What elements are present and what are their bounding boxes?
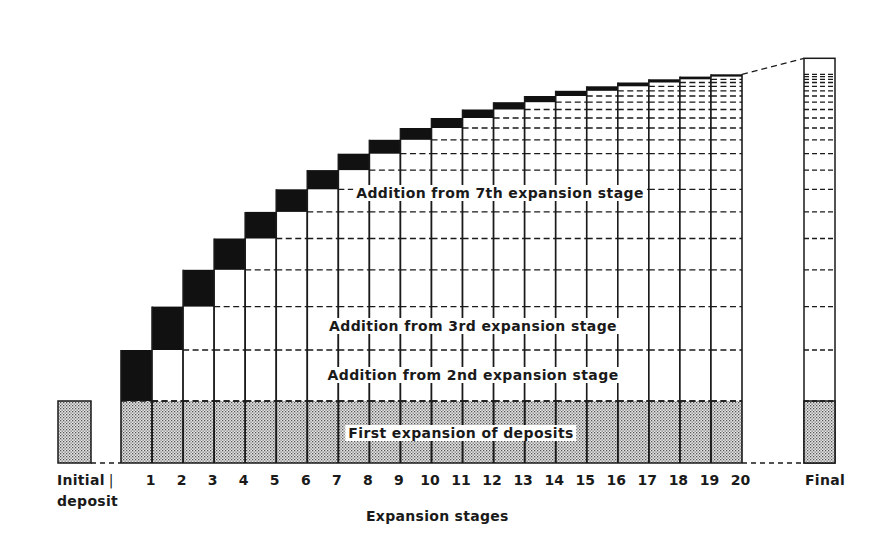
stage-tick-15: 15	[575, 472, 594, 488]
initial-deposit-bar	[58, 401, 91, 463]
x-axis-title: Expansion stages	[366, 508, 509, 524]
stage-tick-17: 17	[638, 472, 657, 488]
stage-tick-6: 6	[301, 472, 311, 488]
label-addition-7th: Addition from 7th expansion stage	[353, 185, 647, 201]
column-body	[556, 91, 587, 401]
new-addition-block	[432, 118, 463, 128]
new-addition-block	[556, 91, 587, 96]
new-addition-block	[680, 77, 711, 80]
stage-tick-12: 12	[482, 472, 501, 488]
stage-tick-7: 7	[332, 472, 342, 488]
stage-tick-16: 16	[607, 472, 626, 488]
new-addition-block	[245, 212, 276, 239]
new-addition-block	[214, 239, 245, 270]
stage-tick-2: 2	[177, 472, 187, 488]
label-first-expansion: First expansion of deposits	[345, 425, 576, 441]
top-connector	[742, 58, 804, 74]
stage-tick-10: 10	[420, 472, 439, 488]
label-addition-3rd: Addition from 3rd expansion stage	[326, 318, 620, 334]
new-addition-block	[711, 74, 742, 76]
new-addition-block	[152, 307, 183, 350]
new-addition-block	[494, 102, 525, 109]
new-addition-block	[525, 96, 556, 102]
new-addition-block	[338, 154, 369, 170]
column-body	[618, 83, 649, 402]
initial-label-line1: Initial	[57, 472, 105, 488]
column-body	[276, 189, 307, 401]
column-body	[587, 86, 618, 401]
new-addition-block	[463, 110, 494, 119]
stage-tick-11: 11	[451, 472, 470, 488]
new-addition-block	[369, 140, 400, 154]
column-body	[432, 118, 463, 401]
new-addition-block	[618, 83, 649, 87]
stage-tick-3: 3	[208, 472, 218, 488]
new-addition-block	[183, 270, 214, 307]
final-bar-stipple	[804, 401, 835, 463]
stage-tick-20: 20	[731, 472, 750, 488]
stage-tick-8: 8	[363, 472, 373, 488]
final-bar	[804, 58, 835, 463]
new-addition-block	[276, 189, 307, 212]
label-addition-2nd: Addition from 2nd expansion stage	[324, 367, 621, 383]
stage-tick-4: 4	[239, 472, 249, 488]
new-addition-block	[307, 170, 338, 189]
column-body	[711, 74, 742, 401]
column-body	[525, 96, 556, 401]
new-addition-block	[400, 128, 431, 140]
initial-deposit-label: Initial| deposit	[57, 472, 118, 514]
new-addition-block	[649, 79, 680, 82]
column-body	[494, 102, 525, 401]
new-addition-block	[587, 86, 618, 91]
stage-tick-19: 19	[700, 472, 719, 488]
column-body	[400, 128, 431, 401]
stage-tick-14: 14	[544, 472, 563, 488]
initial-label-line2: deposit	[57, 493, 118, 509]
initial-divider-mark: |	[109, 472, 114, 488]
stage-tick-1: 1	[146, 472, 156, 488]
stage-tick-5: 5	[270, 472, 280, 488]
stage-tick-18: 18	[669, 472, 688, 488]
stage-tick-13: 13	[513, 472, 532, 488]
new-addition-block	[121, 350, 152, 401]
stage-columns	[121, 58, 835, 463]
stage-tick-9: 9	[394, 472, 404, 488]
final-label: Final	[805, 472, 845, 488]
